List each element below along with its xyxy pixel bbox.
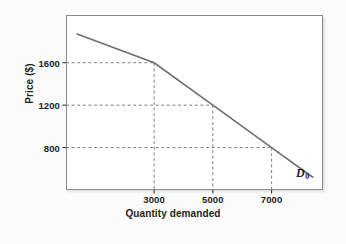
plot-inner: [67, 16, 322, 189]
demand-curve-label: D0: [296, 166, 309, 181]
demand-curve-label-subscript: 0: [305, 172, 309, 181]
y-tick-label: 800: [26, 142, 60, 153]
x-tick-label: 7000: [261, 194, 283, 205]
x-axis-title: Quantity demanded: [0, 208, 346, 219]
x-tick-label: 3000: [143, 194, 165, 205]
demand-curve-label-letter: D: [296, 166, 305, 180]
demand-curve-figure: 80012001600 300050007000 Price ($) Quant…: [0, 0, 346, 244]
x-tick-label: 5000: [202, 194, 224, 205]
plot-area: [66, 15, 323, 190]
y-axis-title: Price ($): [24, 49, 35, 119]
